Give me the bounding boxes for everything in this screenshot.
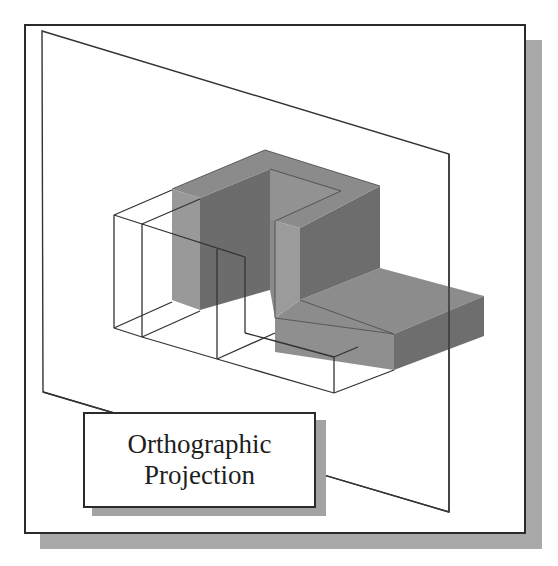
- caption-line-2: Projection: [144, 460, 255, 491]
- left-block-left-face: [172, 189, 200, 310]
- caption-line-1: Orthographic: [128, 429, 272, 460]
- caption-box: Orthographic Projection: [83, 412, 316, 508]
- diagram-canvas: Orthographic Projection: [0, 0, 558, 566]
- shaded-3d-solid: [172, 150, 484, 370]
